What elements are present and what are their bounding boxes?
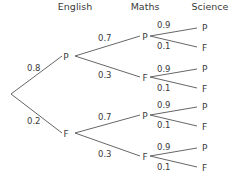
prob-label: 0.1: [157, 83, 171, 93]
prob-label: 0.1: [157, 41, 171, 51]
prob-label: 0.9: [157, 100, 171, 110]
prob-label: 0.8: [27, 63, 41, 73]
header-maths: Maths: [131, 1, 160, 12]
maths-node: P: [142, 111, 148, 121]
prob-label: 0.9: [157, 142, 171, 152]
prob-label: 0.3: [98, 149, 112, 159]
prob-label: 0.9: [157, 20, 171, 30]
science-node: P: [202, 64, 208, 74]
science-node: P: [202, 143, 208, 153]
english-node-f: F: [63, 129, 68, 139]
english-node-p: P: [63, 52, 69, 62]
prob-label: 0.1: [157, 120, 171, 130]
prob-label: 0.1: [157, 162, 171, 172]
prob-label: 0.9: [157, 64, 171, 74]
prob-label: 0.3: [98, 70, 112, 80]
prob-label: 0.7: [98, 33, 112, 43]
science-node: P: [202, 23, 208, 33]
science-node: P: [202, 102, 208, 112]
maths-node: P: [142, 32, 148, 42]
maths-node: F: [142, 152, 147, 162]
header-english: English: [58, 1, 92, 12]
science-node: F: [202, 163, 207, 173]
science-node: F: [202, 84, 207, 94]
probability-tree-diagram: English Maths Science P F P F P F P F P …: [0, 0, 240, 182]
header-science: Science: [192, 1, 229, 12]
prob-label: 0.7: [98, 112, 112, 122]
maths-node: F: [142, 73, 147, 83]
tree-canvas: English Maths Science P F P F P F P F P …: [0, 0, 240, 182]
science-node: F: [202, 43, 207, 53]
prob-label: 0.2: [27, 116, 41, 126]
science-node: F: [202, 122, 207, 132]
